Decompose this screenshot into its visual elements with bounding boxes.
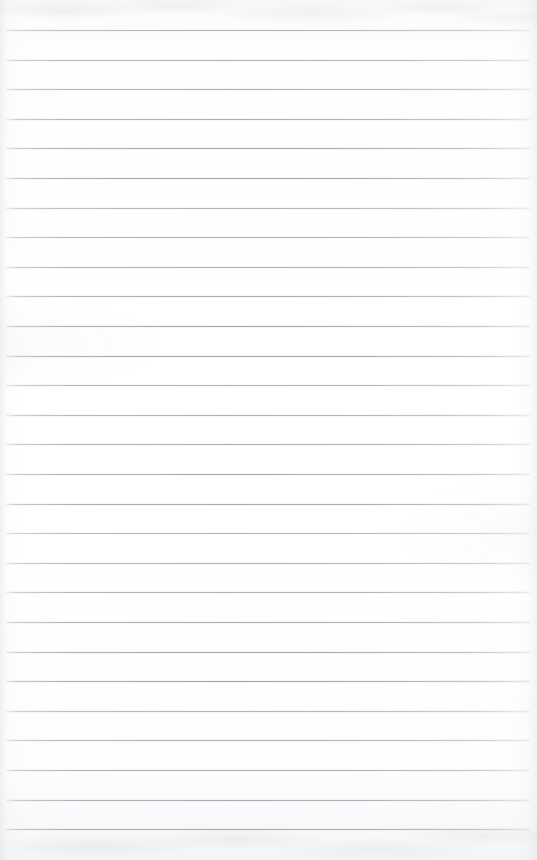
rule-line <box>6 829 530 830</box>
rule-line <box>6 563 530 564</box>
rule-line <box>6 178 530 179</box>
rule-line <box>6 296 530 297</box>
rule-line <box>6 711 530 712</box>
rule-line <box>6 208 530 209</box>
rule-line <box>6 385 530 386</box>
rule-line <box>6 652 530 653</box>
rule-line <box>6 415 530 416</box>
rule-line <box>6 770 530 771</box>
rule-line <box>6 504 530 505</box>
rule-line <box>6 60 530 61</box>
rule-line <box>6 237 530 238</box>
rule-line <box>6 89 530 90</box>
rule-line <box>6 681 530 682</box>
rule-line <box>6 119 530 120</box>
rule-line <box>6 474 530 475</box>
ruled-paper-page <box>0 0 537 860</box>
rule-line <box>6 444 530 445</box>
rule-line <box>6 800 530 801</box>
rule-line <box>6 326 530 327</box>
rule-line <box>6 592 530 593</box>
rule-line <box>6 30 530 31</box>
rule-line <box>6 622 530 623</box>
rule-line <box>6 356 530 357</box>
rule-line <box>6 148 530 149</box>
rule-line <box>6 740 530 741</box>
rule-line <box>6 533 530 534</box>
ruled-lines-group <box>0 0 537 860</box>
rule-line <box>6 267 530 268</box>
